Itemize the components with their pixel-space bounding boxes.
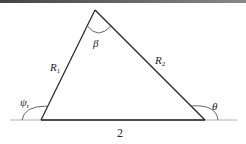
label-psi-sub: r — [27, 102, 29, 110]
label-base-length: 2 — [117, 127, 123, 139]
label-theta: θ — [212, 101, 217, 112]
label-beta: β — [93, 38, 98, 49]
label-r1: R1 — [50, 62, 60, 75]
triangle-diagram: β R1 R2 ψr θ 2 — [0, 0, 246, 144]
label-psi-r: ψr — [20, 97, 29, 110]
label-r1-main: R — [50, 61, 57, 73]
label-psi-main: ψ — [20, 96, 27, 108]
arc-beta — [88, 26, 112, 33]
label-r2-main: R — [155, 54, 162, 66]
side-r2 — [95, 10, 205, 120]
label-r2: R2 — [155, 55, 165, 68]
diagram-svg — [0, 0, 246, 144]
label-r2-sub: 2 — [162, 60, 166, 68]
label-r1-sub: 1 — [57, 67, 61, 75]
